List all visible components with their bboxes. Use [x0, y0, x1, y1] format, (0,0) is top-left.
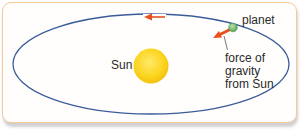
sun-icon: [134, 49, 169, 84]
force-label-pointer: [224, 36, 228, 50]
gravity-force-arrow-icon: [213, 29, 231, 38]
planet-label: planet: [242, 14, 275, 27]
force-label-line3: from Sun: [225, 78, 274, 91]
sun-label: Sun: [111, 59, 132, 72]
planet-icon: [229, 23, 238, 32]
